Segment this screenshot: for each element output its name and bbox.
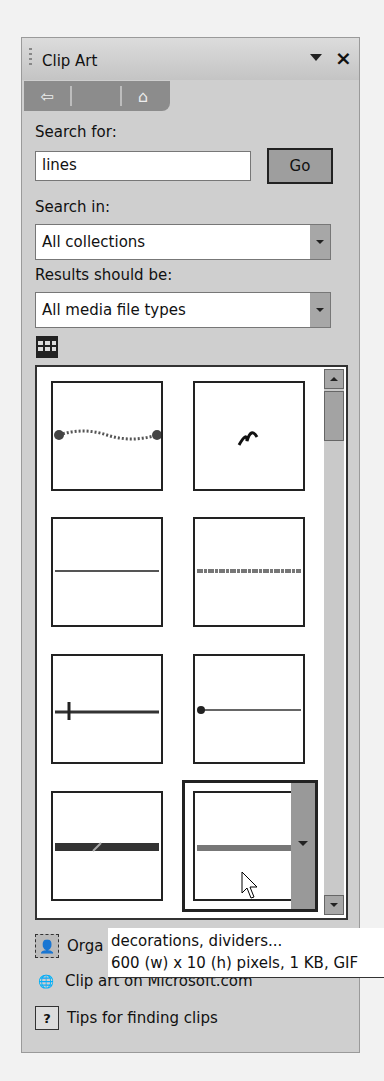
- organizer-icon: 👤: [35, 934, 59, 958]
- drag-grip-icon[interactable]: [29, 48, 32, 68]
- chevron-down-icon[interactable]: [310, 293, 330, 327]
- search-in-label: Search in:: [35, 198, 110, 216]
- clip-tile[interactable]: [193, 654, 305, 764]
- tips-label: Tips for finding clips: [67, 1009, 218, 1027]
- forward-button[interactable]: [74, 85, 120, 107]
- textured-line-clip-icon: [195, 519, 303, 625]
- results-type-select[interactable]: All media file types: [35, 292, 331, 328]
- line-with-dot-clip-icon: [195, 656, 303, 762]
- clip-tooltip: decorations, dividers... 600 (w) x 10 (h…: [108, 928, 384, 978]
- nav-separator: [70, 86, 72, 106]
- results-scrollbar[interactable]: [324, 369, 344, 915]
- search-in-value: All collections: [42, 233, 145, 251]
- globe-icon: 🌐: [35, 970, 57, 992]
- line-with-tick-clip-icon: [53, 656, 161, 762]
- tooltip-details: 600 (w) x 10 (h) pixels, 1 KB, GIF: [111, 952, 384, 974]
- nav-separator: [120, 86, 122, 106]
- close-icon[interactable]: ×: [335, 46, 352, 70]
- search-for-label: Search for:: [35, 123, 117, 141]
- pane-nav-bar: ⇦ ⌂: [24, 81, 170, 111]
- selected-clip-tile[interactable]: [182, 780, 318, 912]
- pane-title: Clip Art: [42, 52, 97, 70]
- scroll-up-button[interactable]: [324, 369, 344, 389]
- organize-clips-label: Orga: [67, 937, 103, 955]
- go-button[interactable]: Go: [267, 148, 333, 184]
- squiggle-clip-icon: [195, 383, 303, 489]
- thin-line-clip-icon: [53, 519, 161, 625]
- clip-tile[interactable]: [51, 654, 163, 764]
- clip-art-task-pane: Clip Art × ⇦ ⌂ Search for: lines Go Sear…: [21, 37, 360, 1053]
- mouse-cursor-icon: [241, 871, 261, 901]
- pane-menu-dropdown-icon[interactable]: [310, 54, 322, 61]
- search-input[interactable]: lines: [35, 151, 251, 181]
- results-type-value: All media file types: [42, 301, 186, 319]
- back-arrow-icon[interactable]: ⇦: [32, 85, 62, 107]
- clip-dropdown-button[interactable]: [291, 783, 315, 909]
- scroll-down-button[interactable]: [324, 895, 344, 915]
- clip-tile[interactable]: [51, 381, 163, 491]
- grid-view-icon[interactable]: [35, 335, 59, 359]
- tips-link[interactable]: ? Tips for finding clips: [35, 1006, 218, 1030]
- dotted-wave-clip-icon: [53, 383, 161, 489]
- chevron-down-icon[interactable]: [310, 225, 330, 259]
- results-list: [35, 365, 348, 920]
- results-should-be-label: Results should be:: [35, 266, 172, 284]
- organize-clips-link[interactable]: 👤 Orga: [35, 934, 103, 958]
- tooltip-keywords: decorations, dividers...: [111, 930, 384, 952]
- help-icon: ?: [35, 1006, 59, 1030]
- clip-tile[interactable]: [193, 517, 305, 627]
- pane-titlebar: Clip Art ×: [22, 38, 359, 80]
- clip-tile[interactable]: [51, 791, 163, 901]
- clip-tile[interactable]: [51, 517, 163, 627]
- clip-tile[interactable]: [193, 381, 305, 491]
- home-icon[interactable]: ⌂: [128, 85, 158, 107]
- search-in-select[interactable]: All collections: [35, 224, 331, 260]
- chevron-down-icon: [298, 841, 308, 846]
- thick-bar-clip-icon: [53, 793, 161, 899]
- scroll-thumb[interactable]: [324, 391, 344, 441]
